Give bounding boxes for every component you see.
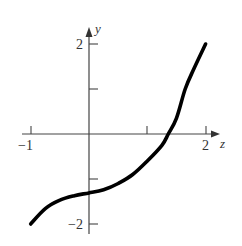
chart: −1 2 2 −2 y z — [0, 0, 242, 246]
x-axis-label: z — [219, 136, 225, 151]
x-tick-label-2: 2 — [202, 138, 209, 153]
x-tick-label-neg1: −1 — [18, 138, 33, 153]
y-axis-arrow-icon — [86, 27, 93, 37]
y-tick-label-neg2: −2 — [68, 217, 83, 232]
x-axis-arrow-icon — [211, 131, 220, 138]
y-tick-label-2: 2 — [76, 37, 83, 52]
y-axis-label: y — [93, 21, 101, 36]
